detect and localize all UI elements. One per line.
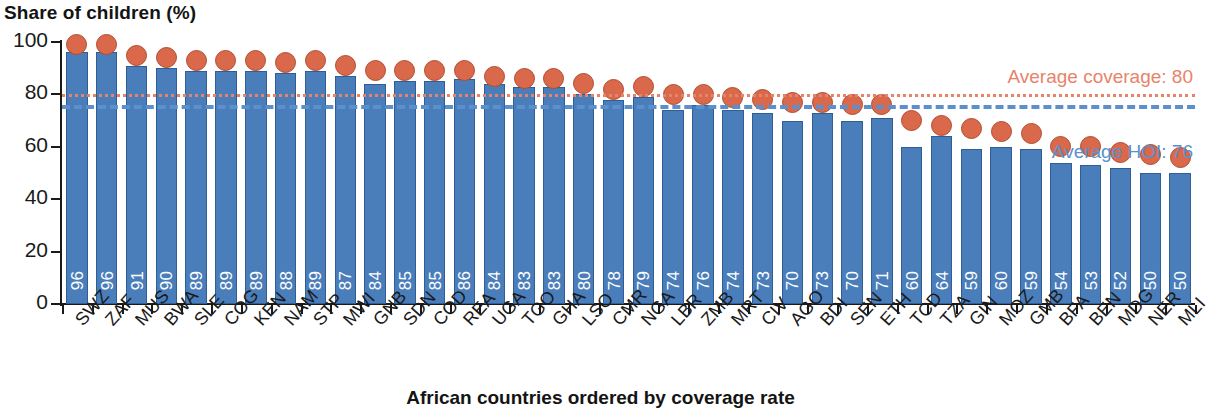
bar: 85: [424, 81, 445, 304]
bar: 60: [990, 147, 1011, 304]
coverage-dot: [514, 68, 535, 89]
bar-value-label: 50: [1172, 271, 1189, 291]
x-tick-mark: [62, 305, 64, 314]
y-tick-label: 100: [0, 28, 48, 52]
bar-value-label: 83: [545, 271, 562, 291]
bar-value-label: 74: [665, 271, 682, 291]
y-tick-label: 80: [0, 80, 48, 104]
bar-value-label: 52: [1112, 271, 1129, 291]
bar: 70: [841, 121, 862, 304]
coverage-dot: [424, 60, 445, 81]
bar: 76: [692, 105, 713, 304]
bar: 70: [782, 121, 803, 304]
average-hoi-label: Average HOI: 76: [1052, 141, 1193, 163]
bar: 87: [335, 76, 356, 304]
bar-value-label: 64: [933, 271, 950, 291]
bar-value-label: 59: [963, 271, 980, 291]
average-coverage-line: [62, 94, 1195, 97]
bar-value-label: 96: [68, 271, 85, 291]
bar: 59: [961, 149, 982, 304]
bar-value-label: 87: [337, 271, 354, 291]
bar: 52: [1110, 168, 1131, 304]
y-tick-label: 60: [0, 133, 48, 157]
bar: 73: [752, 113, 773, 304]
bar: 78: [603, 100, 624, 304]
bar: 96: [66, 52, 87, 304]
bar-value-label: 91: [128, 271, 145, 291]
bar-value-label: 60: [993, 271, 1010, 291]
bar-value-label: 59: [1022, 271, 1039, 291]
bar: 64: [931, 136, 952, 304]
y-tick-label: 0: [0, 290, 48, 314]
bar: 83: [543, 87, 564, 304]
bar: 83: [513, 87, 534, 304]
bar: 53: [1080, 165, 1101, 304]
bar: 80: [573, 94, 594, 304]
coverage-dot: [394, 60, 415, 81]
coverage-dot: [126, 45, 147, 66]
average-coverage-label: Average coverage: 80: [1007, 66, 1193, 88]
bar: 79: [633, 97, 654, 304]
bar: 91: [126, 66, 147, 304]
bar-value-label: 73: [754, 271, 771, 291]
bar: 96: [96, 52, 117, 304]
bar-value-label: 84: [486, 271, 503, 291]
bar-value-label: 60: [903, 271, 920, 291]
coverage-dot: [931, 115, 952, 136]
bar-value-label: 53: [1082, 271, 1099, 291]
bar: 74: [662, 110, 683, 304]
y-tick-label: 40: [0, 185, 48, 209]
bar-value-label: 89: [217, 271, 234, 291]
y-tick-mark: [51, 303, 60, 305]
bar-value-label: 71: [873, 271, 890, 291]
coverage-dot: [961, 118, 982, 139]
coverage-dot: [991, 121, 1012, 142]
bar-value-label: 74: [724, 271, 741, 291]
coverage-dot: [275, 52, 296, 73]
coverage-dot: [365, 60, 386, 81]
bar-value-label: 80: [575, 271, 592, 291]
bar-value-label: 76: [695, 271, 712, 291]
bar: 60: [901, 147, 922, 304]
y-tick-mark: [51, 198, 60, 200]
y-axis-title: Share of children (%): [4, 2, 196, 24]
coverage-dot: [335, 55, 356, 76]
bar-value-label: 78: [605, 271, 622, 291]
y-tick-mark: [51, 93, 60, 95]
coverage-dot: [156, 47, 177, 68]
y-tick-label: 20: [0, 238, 48, 262]
bar: 54: [1050, 163, 1071, 304]
y-tick-mark: [51, 41, 60, 43]
bar: 73: [812, 113, 833, 304]
bar-value-label: 70: [784, 271, 801, 291]
coverage-dot: [245, 50, 266, 71]
bar-value-label: 83: [516, 271, 533, 291]
bar: 90: [156, 68, 177, 304]
bar: 59: [1020, 149, 1041, 304]
bar-value-label: 85: [396, 271, 413, 291]
bar: 84: [364, 84, 385, 304]
coverage-dot: [215, 50, 236, 71]
coverage-dot: [484, 66, 505, 87]
y-tick-mark: [51, 146, 60, 148]
bar-value-label: 84: [367, 271, 384, 291]
y-tick-mark: [51, 251, 60, 253]
bar-value-label: 88: [277, 271, 294, 291]
coverage-dot: [305, 50, 326, 71]
bar: 74: [722, 110, 743, 304]
bar-value-label: 73: [814, 271, 831, 291]
bar-value-label: 85: [426, 271, 443, 291]
bar-value-label: 70: [844, 271, 861, 291]
coverage-dot: [901, 110, 922, 131]
coverage-dot: [1021, 123, 1042, 144]
coverage-dot: [186, 50, 207, 71]
x-axis-title: African countries ordered by coverage ra…: [0, 387, 1201, 409]
bar: 71: [871, 118, 892, 304]
bar: 86: [454, 79, 475, 304]
average-hoi-line: [62, 105, 1195, 109]
bar: 85: [394, 81, 415, 304]
coverage-dot: [573, 73, 594, 94]
bar: 50: [1169, 173, 1190, 304]
bar: 84: [484, 84, 505, 304]
